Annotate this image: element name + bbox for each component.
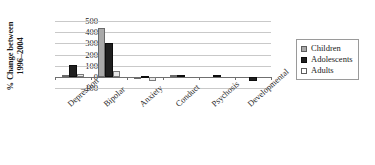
bar xyxy=(134,77,142,79)
legend-swatch-icon xyxy=(301,46,307,52)
bar xyxy=(113,71,121,77)
legend-swatch-icon xyxy=(301,68,307,74)
bar xyxy=(177,75,185,77)
bar xyxy=(62,75,70,77)
legend-item-label: Adults xyxy=(311,66,334,75)
y-axis-title-line-1: % Change between xyxy=(5,21,15,90)
x-axis-tick xyxy=(127,77,128,80)
bar xyxy=(149,77,157,81)
bar-group xyxy=(235,21,271,88)
bar xyxy=(77,74,85,77)
bar xyxy=(105,43,113,77)
bar xyxy=(249,77,257,81)
x-axis-tick xyxy=(55,77,56,80)
bar-chart: % Change between 1996–2004 5004003002001… xyxy=(0,0,375,165)
bar-group xyxy=(55,21,91,88)
bar xyxy=(141,76,149,78)
bar xyxy=(98,28,106,77)
plot-area xyxy=(55,21,271,88)
legend-swatch-icon xyxy=(301,57,307,63)
bar xyxy=(213,75,221,77)
bar xyxy=(69,65,77,77)
y-axis-title: % Change between 1996–2004 xyxy=(2,8,28,103)
legend-item: Adolescents xyxy=(301,54,353,65)
y-axis-title-line-2: 1996–2004 xyxy=(15,37,25,74)
bar-group xyxy=(199,21,235,88)
legend-item: Adults xyxy=(301,65,353,76)
legend-item-label: Adolescents xyxy=(311,55,353,64)
bar xyxy=(170,75,178,77)
legend: ChildrenAdolescentsAdults xyxy=(296,39,359,80)
bar-group xyxy=(163,21,199,88)
legend-item: Children xyxy=(301,43,353,54)
legend-item-label: Children xyxy=(311,44,341,53)
bar-group xyxy=(127,21,163,88)
x-axis-tick xyxy=(199,77,200,80)
x-axis-tick xyxy=(163,77,164,80)
